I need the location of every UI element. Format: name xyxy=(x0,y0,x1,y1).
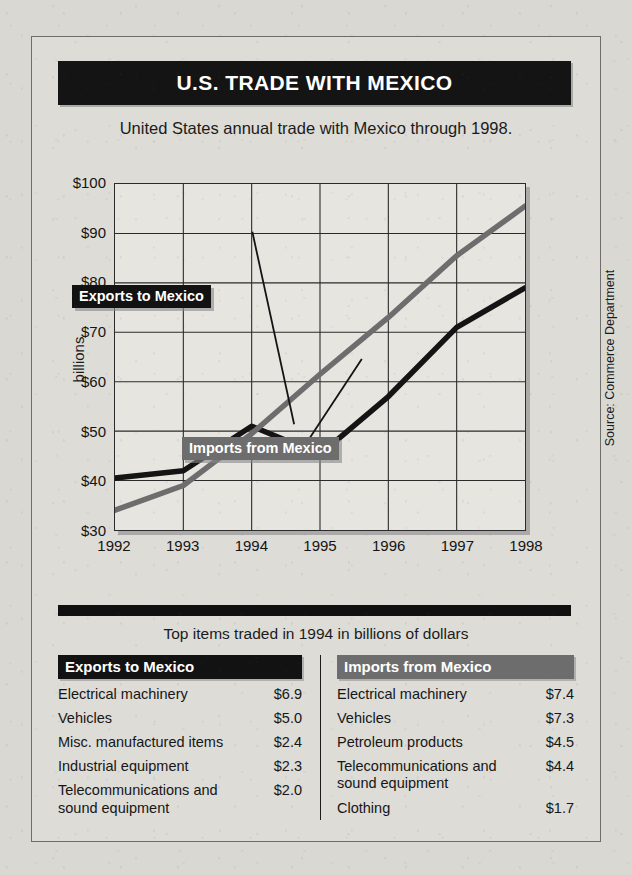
item-value: $2.0 xyxy=(274,782,302,798)
item-name: Electrical machinery xyxy=(58,686,268,703)
item-name: Vehicles xyxy=(337,710,540,727)
x-axis-ticks: 1992199319941995199619971998 xyxy=(114,537,526,561)
tables-caption: Top items traded in 1994 in billions of … xyxy=(32,625,600,643)
x-tick-label: 1995 xyxy=(303,537,336,554)
plot-area xyxy=(114,183,526,531)
imports-table-header: Imports from Mexico xyxy=(337,655,574,679)
section-divider xyxy=(58,605,571,616)
y-tick-label: $40 xyxy=(44,472,106,489)
chart-canvas xyxy=(115,184,525,530)
table-row: Electrical machinery$6.9 xyxy=(58,686,302,703)
x-tick-label: 1994 xyxy=(235,537,268,554)
callout-imports-from-mexico: Imports from Mexico xyxy=(182,437,339,460)
exports-table-header: Exports to Mexico xyxy=(58,655,302,679)
infographic-frame: U.S. TRADE WITH MEXICO United States ann… xyxy=(31,36,601,842)
x-tick-label: 1996 xyxy=(372,537,405,554)
y-tick-label: $50 xyxy=(44,423,106,440)
item-value: $4.4 xyxy=(546,758,574,774)
item-value: $2.4 xyxy=(274,734,302,750)
item-name: Misc. manufactured items xyxy=(58,734,268,751)
y-tick-label: $70 xyxy=(44,323,106,340)
page-title: U.S. TRADE WITH MEXICO xyxy=(177,71,453,95)
exports-table-body: Electrical machinery$6.9Vehicles$5.0Misc… xyxy=(58,686,302,817)
item-value: $7.4 xyxy=(546,686,574,702)
item-name: Vehicles xyxy=(58,710,268,727)
item-name-continued: sound equipment xyxy=(58,800,302,817)
table-row: Vehicles$5.0 xyxy=(58,710,302,727)
item-value: $5.0 xyxy=(274,710,302,726)
y-axis-ticks: $30$40$50$60$70$80$90$100 xyxy=(40,183,106,531)
title-bar: U.S. TRADE WITH MEXICO xyxy=(58,61,571,105)
item-value: $4.5 xyxy=(546,734,574,750)
item-name: Electrical machinery xyxy=(337,686,540,703)
traded-items-tables: Exports to Mexico Electrical machinery$6… xyxy=(58,655,575,820)
item-name: Telecommunications and xyxy=(58,782,268,799)
x-tick-label: 1997 xyxy=(441,537,474,554)
table-row: Electrical machinery$7.4 xyxy=(337,686,574,703)
table-row: Petroleum products$4.5 xyxy=(337,734,574,751)
table-row: Vehicles$7.3 xyxy=(337,710,574,727)
source-attribution: Source: Commerce Department xyxy=(603,253,617,463)
imports-table-body: Electrical machinery$7.4Vehicles$7.3Petr… xyxy=(337,686,574,817)
x-tick-label: 1993 xyxy=(166,537,199,554)
imports-table: Imports from Mexico Electrical machinery… xyxy=(320,655,574,820)
y-tick-label: $60 xyxy=(44,373,106,390)
item-name: Industrial equipment xyxy=(58,758,268,775)
x-tick-label: 1992 xyxy=(97,537,130,554)
table-row: Clothing$1.7 xyxy=(337,800,574,817)
item-name: Clothing xyxy=(337,800,540,817)
item-value: $7.3 xyxy=(546,710,574,726)
table-row: Telecommunications and$4.4 xyxy=(337,758,574,775)
item-name: Petroleum products xyxy=(337,734,540,751)
subtitle: United States annual trade with Mexico t… xyxy=(32,119,600,138)
callout-exports-to-mexico: Exports to Mexico xyxy=(72,285,211,308)
y-tick-label: $90 xyxy=(44,224,106,241)
x-tick-label: 1998 xyxy=(509,537,542,554)
item-value: $1.7 xyxy=(546,800,574,816)
item-value: $2.3 xyxy=(274,758,302,774)
y-tick-label: $100 xyxy=(44,174,106,191)
table-row: Industrial equipment$2.3 xyxy=(58,758,302,775)
item-name: Telecommunications and xyxy=(337,758,540,775)
table-row: Telecommunications and$2.0 xyxy=(58,782,302,799)
table-row: Misc. manufactured items$2.4 xyxy=(58,734,302,751)
item-value: $6.9 xyxy=(274,686,302,702)
line-chart: billions $30$40$50$60$70$80$90$100 19921… xyxy=(32,155,602,595)
item-name-continued: sound equipment xyxy=(337,775,574,792)
exports-table: Exports to Mexico Electrical machinery$6… xyxy=(58,655,312,820)
